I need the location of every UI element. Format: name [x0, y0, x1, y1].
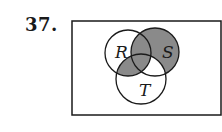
label-r: R: [114, 42, 128, 62]
venn-diagram: R S T: [0, 0, 222, 132]
label-s: S: [162, 42, 174, 62]
label-t: T: [139, 80, 152, 100]
